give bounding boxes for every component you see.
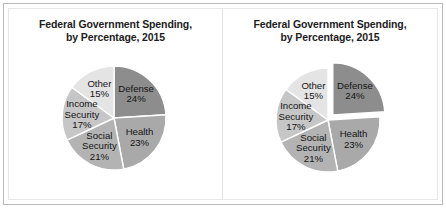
slice-label-income-security-line2: Security <box>279 111 314 122</box>
slice-value-social-security: 21% <box>90 151 110 162</box>
slice-label-health: Health <box>340 128 368 139</box>
slice-label-social-security-line2: Security <box>82 140 117 151</box>
slice-label-defense: Defense <box>337 80 373 91</box>
slice-value-health: 23% <box>344 139 364 150</box>
slice-value-other: 15% <box>304 90 324 101</box>
slice-label-social-security: Social <box>86 130 112 141</box>
slice-label-other: Other <box>87 78 112 89</box>
slice-label-income-security-line2: Security <box>65 109 100 120</box>
slice-value-defense: 24% <box>345 90 365 101</box>
slice-label-income-security: Income <box>66 98 97 109</box>
slice-value-social-security: 21% <box>304 153 324 164</box>
slice-value-defense: 24% <box>126 93 146 104</box>
figure-container: Federal Government Spending, by Percenta… <box>0 0 446 208</box>
slice-label-income-security: Income <box>280 100 311 111</box>
pie-svg-left: Defense24%Health23%SocialSecurity21%Inco… <box>9 8 222 200</box>
pie-svg-right: Defense24%Health23%SocialSecurity21%Inco… <box>223 8 437 200</box>
slice-value-health: 23% <box>130 137 150 148</box>
slice-label-health: Health <box>126 126 154 137</box>
slice-label-other: Other <box>301 80 326 91</box>
pie-chart-right: Defense24%Health23%SocialSecurity21%Inco… <box>223 8 437 200</box>
slice-label-social-security: Social <box>300 132 326 143</box>
slice-label-defense: Defense <box>118 83 154 94</box>
pie-chart-left: Defense24%Health23%SocialSecurity21%Inco… <box>9 8 222 200</box>
slice-label-social-security-line2: Security <box>296 142 331 153</box>
slice-value-income-security: 17% <box>72 119 92 130</box>
slice-value-other: 15% <box>90 88 110 99</box>
chart-panel-left: Federal Government Spending, by Percenta… <box>9 8 222 200</box>
chart-panel-right: Federal Government Spending, by Percenta… <box>223 8 437 200</box>
slice-value-income-security: 17% <box>286 121 306 132</box>
